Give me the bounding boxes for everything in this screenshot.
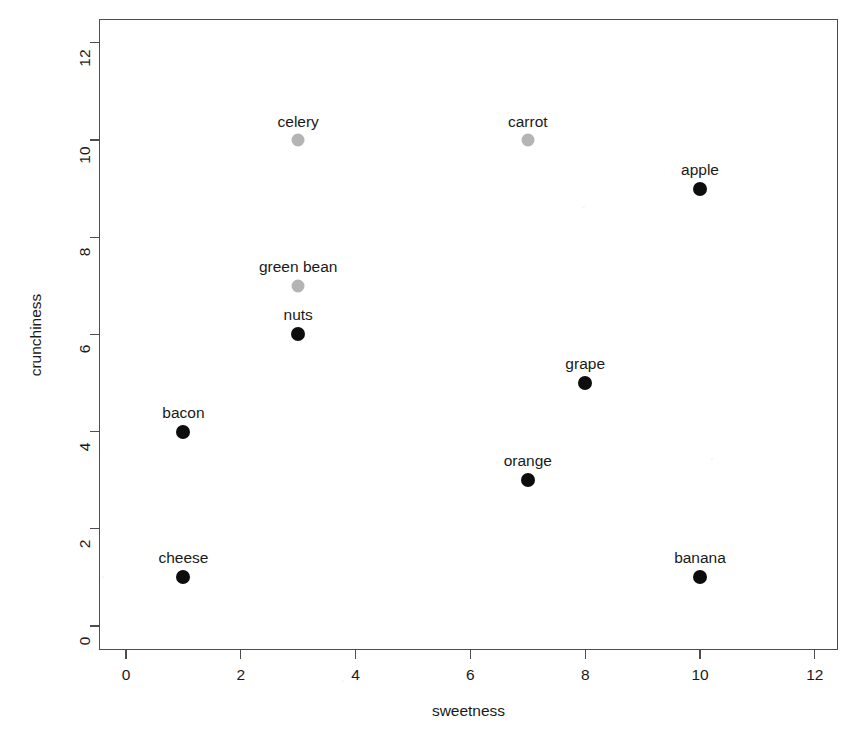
x-tick-mark <box>585 650 586 659</box>
data-point-label: banana <box>674 549 726 567</box>
x-tick-label: 10 <box>691 666 708 684</box>
y-tick-label: 8 <box>76 237 94 267</box>
x-tick-label: 4 <box>351 666 360 684</box>
data-point-marker[interactable] <box>292 134 305 147</box>
data-point-label: cheese <box>158 549 208 567</box>
data-point-label: apple <box>681 161 719 179</box>
plot-area <box>99 19 838 650</box>
data-point-marker[interactable] <box>176 425 190 439</box>
data-point-marker[interactable] <box>693 182 707 196</box>
data-point-label: celery <box>278 113 319 131</box>
y-tick-label: 10 <box>76 140 94 170</box>
x-tick-label: 6 <box>466 666 475 684</box>
x-tick-mark <box>125 650 126 659</box>
x-tick-label: 0 <box>122 666 131 684</box>
y-tick-label: 4 <box>76 432 94 462</box>
data-point-label: carrot <box>508 113 548 131</box>
data-point-marker[interactable] <box>578 376 592 390</box>
data-point-marker[interactable] <box>292 279 305 292</box>
data-point-label: nuts <box>284 306 313 324</box>
data-point-label: green bean <box>259 258 337 276</box>
y-tick-label: 2 <box>76 529 94 559</box>
y-tick-label: 6 <box>76 334 94 364</box>
x-axis-title: sweetness <box>432 702 505 720</box>
x-tick-mark <box>355 650 356 659</box>
scatter-plot-figure: 024681012 024681012 celerycarrotapplegre… <box>0 0 858 740</box>
y-tick-label: 0 <box>76 626 94 656</box>
x-tick-mark <box>814 650 815 659</box>
data-point-marker[interactable] <box>521 473 535 487</box>
x-tick-label: 2 <box>236 666 245 684</box>
x-tick-mark <box>470 650 471 659</box>
data-point-marker[interactable] <box>291 327 305 341</box>
data-point-marker[interactable] <box>521 134 534 147</box>
data-point-label: grape <box>565 355 605 373</box>
data-point-marker[interactable] <box>176 570 190 584</box>
x-tick-mark <box>240 650 241 659</box>
data-point-label: orange <box>504 452 552 470</box>
data-point-label: bacon <box>162 404 204 422</box>
data-point-marker[interactable] <box>693 570 707 584</box>
x-tick-label: 8 <box>581 666 590 684</box>
y-axis-title: crunchiness <box>27 293 45 376</box>
x-tick-mark <box>699 650 700 659</box>
y-tick-label: 12 <box>76 43 94 73</box>
x-tick-label: 12 <box>806 666 823 684</box>
